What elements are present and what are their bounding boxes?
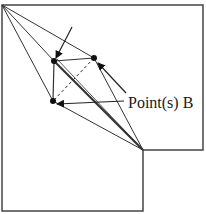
point-b-2 [91,55,97,61]
arrow-bottom [57,101,124,104]
arrows [56,27,126,104]
arrow-top [56,27,72,58]
line-p1-p3 [53,61,54,101]
arrow-right [98,63,126,93]
geometry-diagram: Point(s) B [0,0,206,214]
point-b-1 [51,58,57,64]
points-b-label: Point(s) B [128,94,193,112]
line-corner-to-p1 [2,5,54,61]
line-p1-p2 [54,58,94,61]
point-b-3 [50,98,56,104]
